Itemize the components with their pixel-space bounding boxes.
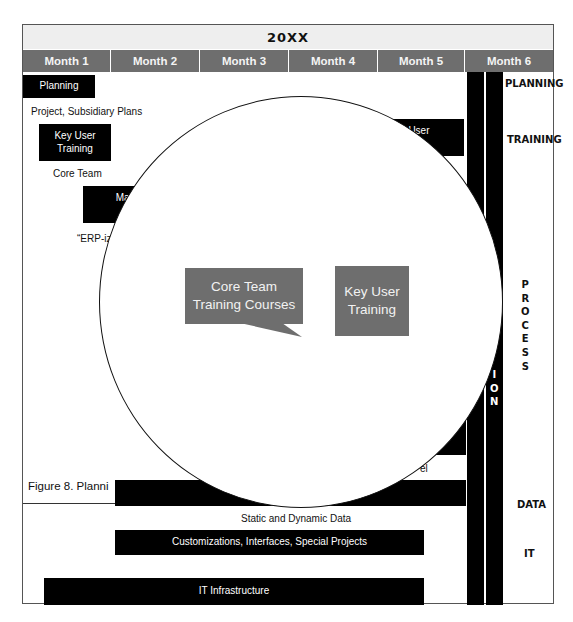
month-1-header: Month 1 <box>23 50 110 72</box>
key-user-training-callout: Key User Training <box>335 266 409 336</box>
month-6-header: Month 6 <box>465 50 553 72</box>
customizations-block: Customizations, Interfaces, Special Proj… <box>115 530 424 555</box>
planning-block: Planning <box>23 75 95 98</box>
side-label-data: DATA <box>517 499 546 510</box>
static-dynamic-data-label: Static and Dynamic Data <box>241 513 351 524</box>
core-team-label: Core Team <box>53 168 102 179</box>
callout-tail-icon <box>238 323 304 339</box>
month-4-header: Month 4 <box>289 50 377 72</box>
project-plans-label: Project, Subsidiary Plans <box>31 106 142 117</box>
month-5-header: Month 5 <box>378 50 464 72</box>
year-header: 20XX <box>23 25 553 49</box>
side-label-it: IT <box>524 548 535 559</box>
month-2-header: Month 2 <box>111 50 199 72</box>
figure-caption: Figure 8. Planni <box>28 480 109 492</box>
caption-rule <box>23 503 115 504</box>
month-3-header: Month 3 <box>200 50 288 72</box>
it-infrastructure-block: IT Infrastructure <box>44 578 424 605</box>
erp-label: “ERP-iz <box>77 233 111 244</box>
side-label-planning: PLANNING <box>505 78 563 89</box>
side-label-training: TRAINING <box>507 134 562 145</box>
core-team-training-callout: Core Team Training Courses <box>185 268 303 324</box>
key-user-training-block: Key User Training <box>39 124 111 161</box>
vertical-bar-text: I O N <box>490 368 499 409</box>
side-label-process: P R O C E S S <box>521 278 530 373</box>
